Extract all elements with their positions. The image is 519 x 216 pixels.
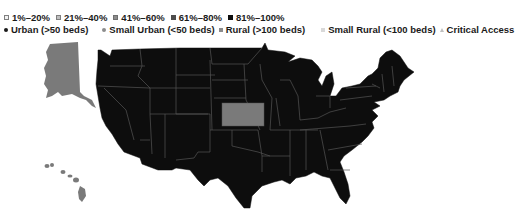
legend-label: Small Rural (<100 beds) — [328, 24, 435, 35]
dot-marker-icon — [102, 28, 106, 32]
map-legend: 1%–20% 21%–40% 41%–60% 61%–80% 81%–100% … — [0, 0, 466, 34]
legend-item-critical-access: Critical Access — [440, 24, 515, 35]
swatch-icon — [113, 15, 118, 20]
legend-item-61-80: 61%–80% — [171, 12, 222, 23]
legend-item-urban: Urban (>50 beds) — [4, 24, 88, 35]
square-marker-icon — [219, 28, 223, 32]
legend-item-small-rural: Small Rural (<100 beds) — [321, 24, 435, 35]
legend-label: Critical Access — [447, 24, 515, 35]
legend-label: 61%–80% — [179, 12, 222, 23]
state-alaska — [44, 42, 96, 108]
swatch-icon — [56, 15, 61, 20]
legend-hospital-types: Urban (>50 beds) Small Urban (<50 beds) … — [4, 24, 519, 35]
legend-item-41-60: 41%–60% — [113, 12, 164, 23]
legend-item-81-100: 81%–100% — [228, 12, 285, 23]
state-hawaii — [45, 163, 87, 202]
legend-label: 81%–100% — [236, 12, 285, 23]
legend-label: Small Urban (<50 beds) — [109, 24, 214, 35]
swatch-icon — [171, 15, 176, 20]
legend-label: 41%–60% — [121, 12, 164, 23]
swatch-icon — [228, 15, 233, 20]
legend-item-21-40: 21%–40% — [56, 12, 107, 23]
square-marker-icon — [321, 28, 325, 32]
triangle-marker-icon — [440, 28, 444, 32]
legend-label: 1%–20% — [12, 12, 50, 23]
legend-label: Rural (>100 beds) — [226, 24, 305, 35]
legend-label: 21%–40% — [64, 12, 107, 23]
swatch-icon — [4, 15, 9, 20]
state-kansas — [222, 103, 264, 126]
legend-item-1-20: 1%–20% — [4, 12, 50, 23]
legend-item-small-urban: Small Urban (<50 beds) — [102, 24, 214, 35]
legend-percent-ranges: 1%–20% 21%–40% 41%–60% 61%–80% 81%–100% — [4, 12, 291, 23]
legend-item-rural: Rural (>100 beds) — [219, 24, 305, 35]
legend-label: Urban (>50 beds) — [11, 24, 88, 35]
dot-marker-icon — [4, 28, 8, 32]
